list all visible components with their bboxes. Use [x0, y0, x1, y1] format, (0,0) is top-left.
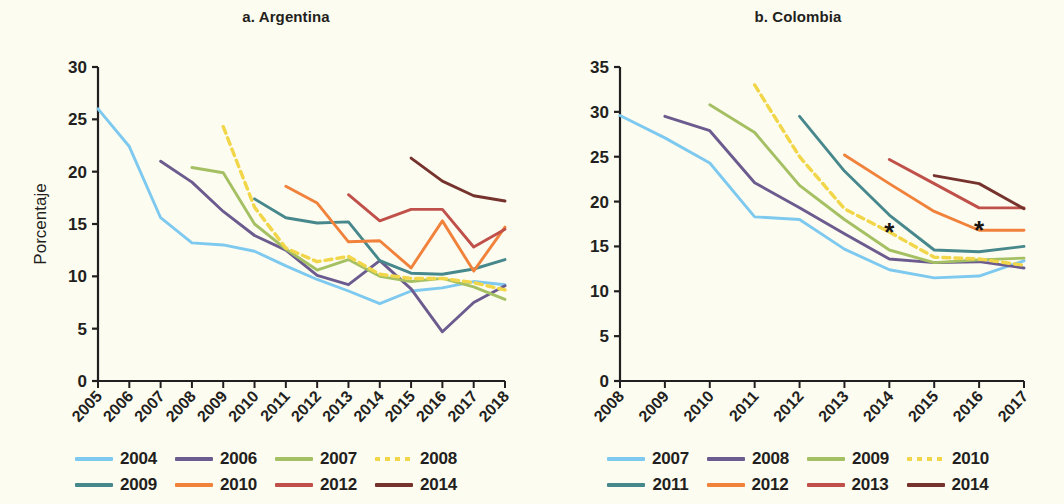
- legend-label: 2008: [420, 449, 457, 469]
- legend-item[interactable]: 2012: [275, 475, 357, 495]
- legend-swatch-icon: [75, 457, 113, 461]
- x-tick-label: 2017: [994, 387, 1031, 425]
- y-tick-label: 25: [68, 110, 87, 129]
- legend-item[interactable]: 2014: [375, 475, 457, 495]
- legend-swatch-icon: [907, 457, 945, 461]
- legend-item[interactable]: 2007: [275, 449, 357, 469]
- x-tick-label: 2017: [444, 387, 481, 425]
- legend-item[interactable]: 2010: [907, 449, 989, 469]
- legend-label: 2012: [320, 475, 357, 495]
- legend-row: 2009 2010 2012 2014: [0, 472, 532, 498]
- legend-swatch-icon: [175, 483, 213, 487]
- x-tick-label: 2011: [257, 387, 293, 424]
- annotation-asterisk: *: [884, 217, 895, 247]
- series-line-2007: [620, 115, 1024, 277]
- y-tick-label: 5: [600, 327, 609, 346]
- legend-label: 2011: [652, 475, 688, 495]
- legend-swatch-icon: [275, 483, 313, 487]
- legend-swatch-icon: [707, 457, 745, 461]
- legend-item[interactable]: 2004: [75, 449, 157, 469]
- y-tick-label: 0: [600, 372, 609, 391]
- legend-label: 2014: [952, 475, 989, 495]
- legend-swatch-icon: [807, 457, 845, 461]
- legend-item[interactable]: 2011: [607, 475, 688, 495]
- y-tick-label: 20: [68, 163, 87, 182]
- y-tick-label: 15: [68, 215, 87, 234]
- colombia-legend: 2007 2008 2009 2010 2011: [532, 446, 1064, 498]
- y-tick-label: 0: [78, 372, 87, 391]
- legend-swatch-icon: [607, 483, 645, 487]
- x-tick-label: 2010: [680, 387, 717, 425]
- y-tick-label: 10: [68, 267, 87, 286]
- y-axis-title: Porcentaje: [31, 183, 50, 264]
- y-tick-label: 35: [590, 58, 609, 77]
- x-tick-label: 2008: [162, 387, 199, 425]
- x-tick-label: 2009: [194, 387, 231, 425]
- x-tick-label: 2005: [68, 387, 105, 425]
- series-line-2014: [411, 158, 505, 201]
- figure-root: a. Argentina 051015202530200520062007200…: [0, 0, 1064, 504]
- legend-item[interactable]: 2012: [707, 475, 789, 495]
- legend-row: 2004 2006 2007 2008: [0, 446, 532, 472]
- legend-swatch-icon: [607, 457, 645, 461]
- x-tick-label: 2010: [225, 387, 262, 425]
- legend-swatch-icon: [907, 483, 945, 487]
- legend-label: 2007: [320, 449, 357, 469]
- legend-label: 2007: [652, 449, 689, 469]
- y-tick-label: 25: [590, 148, 609, 167]
- y-tick-label: 20: [590, 193, 609, 212]
- legend-label: 2014: [420, 475, 457, 495]
- legend-label: 2004: [120, 449, 157, 469]
- legend-item[interactable]: 2009: [75, 475, 157, 495]
- legend-swatch-icon: [375, 457, 413, 461]
- legend-row: 2007 2008 2009 2010: [532, 446, 1064, 472]
- panel-argentina: a. Argentina 051015202530200520062007200…: [0, 0, 532, 504]
- legend-item[interactable]: 2006: [175, 449, 257, 469]
- legend-item[interactable]: 2009: [807, 449, 889, 469]
- panel-colombia: b. Colombia 0510152025303520082009201020…: [532, 0, 1064, 504]
- x-tick-label: 2016: [950, 387, 987, 425]
- legend-label: 2010: [952, 449, 989, 469]
- legend-item[interactable]: 2008: [375, 449, 457, 469]
- series-line-2012: [348, 195, 505, 247]
- legend-swatch-icon: [807, 483, 845, 487]
- legend-item[interactable]: 2008: [707, 449, 789, 469]
- x-tick-label: 2016: [413, 387, 450, 425]
- legend-label: 2013: [852, 475, 889, 495]
- legend-swatch-icon: [707, 483, 745, 487]
- legend-swatch-icon: [75, 483, 113, 487]
- legend-label: 2010: [220, 475, 257, 495]
- y-tick-label: 30: [68, 58, 87, 77]
- argentina-plot: 0510152025302005200620072008200920102011…: [0, 0, 532, 446]
- x-tick-label: 2013: [815, 387, 852, 425]
- x-tick-label: 2018: [475, 387, 512, 425]
- series-line-2010: [286, 186, 505, 271]
- legend-item[interactable]: 2013: [807, 475, 889, 495]
- legend-item[interactable]: 2014: [907, 475, 989, 495]
- series-line-2013: [889, 159, 1024, 207]
- legend-label: 2009: [120, 475, 157, 495]
- y-tick-label: 10: [590, 282, 609, 301]
- legend-item[interactable]: 2007: [607, 449, 689, 469]
- legend-row: 2011 2012 2013 2014: [532, 472, 1064, 498]
- legend-label: 2006: [220, 449, 257, 469]
- x-tick-label: 2011: [726, 387, 762, 424]
- x-tick-label: 2007: [131, 387, 168, 425]
- colombia-plot: 0510152025303520082009201020112012201320…: [532, 0, 1064, 446]
- x-tick-label: 2008: [590, 387, 627, 425]
- argentina-legend: 2004 2006 2007 2008 2009: [0, 446, 532, 498]
- x-tick-label: 2015: [905, 387, 942, 425]
- legend-label: 2009: [852, 449, 889, 469]
- x-tick-label: 2012: [770, 387, 807, 425]
- legend-swatch-icon: [275, 457, 313, 461]
- series-line-2008: [665, 116, 1024, 268]
- x-tick-label: 2012: [288, 387, 325, 425]
- x-tick-label: 2014: [350, 387, 387, 425]
- x-tick-label: 2009: [635, 387, 672, 425]
- x-tick-label: 2014: [860, 387, 897, 425]
- y-tick-label: 15: [590, 237, 609, 256]
- annotation-asterisk: *: [974, 215, 985, 245]
- legend-label: 2012: [752, 475, 789, 495]
- legend-item[interactable]: 2010: [175, 475, 257, 495]
- legend-swatch-icon: [375, 483, 413, 487]
